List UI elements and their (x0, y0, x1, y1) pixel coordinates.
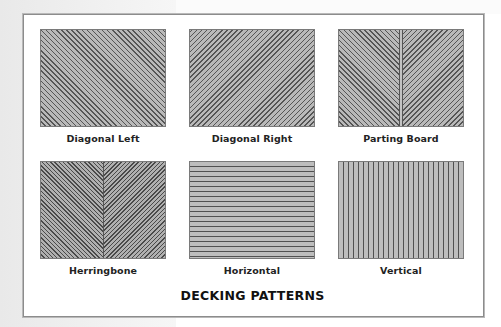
page-top-margin (176, 0, 501, 14)
herringbone-label: Herringbone (40, 265, 166, 276)
herringbone-right-half (103, 162, 165, 258)
parting-board-right-half (403, 30, 463, 126)
parting-board-left-half (339, 30, 399, 126)
diagonal-right-label: Diagonal Right (189, 133, 315, 144)
horizontal-label: Horizontal (189, 265, 315, 276)
diagonal-left-swatch (40, 29, 166, 127)
horizontal-swatch (189, 161, 315, 259)
vertical-label: Vertical (338, 265, 464, 276)
vertical-swatch (338, 161, 464, 259)
herringbone-swatch (40, 161, 166, 259)
parting-board-label: Parting Board (338, 133, 464, 144)
herringbone-left-half (41, 162, 103, 258)
diagonal-left-label: Diagonal Left (40, 133, 166, 144)
diagonal-right-swatch (189, 29, 315, 127)
parting-board-swatch (338, 29, 464, 127)
figure-title: DECKING PATTERNS (23, 288, 482, 303)
